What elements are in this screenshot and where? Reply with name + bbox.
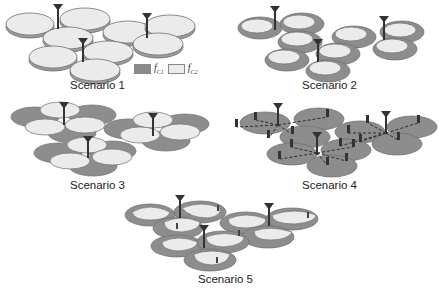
legend: fC1 fC2: [134, 62, 198, 75]
scenario-1-caption: Scenario 1: [70, 79, 125, 91]
scenario-3-caption: Scenario 3: [70, 179, 125, 191]
scenario-2-caption: Scenario 2: [302, 79, 357, 91]
scenario-4-panel: Scenario 4: [220, 95, 439, 190]
scenario-3-panel: Scenario 3: [0, 95, 220, 190]
scenario-5-panel: Scenario 5: [120, 190, 340, 294]
scenario-1-panel: fC1 fC2 Scenario 1: [0, 0, 220, 95]
legend-label-fc2: fC2: [188, 62, 198, 75]
scenario-3-diagram: [0, 95, 220, 190]
legend-swatch-fc1: [134, 64, 151, 74]
scenario-4-diagram: [220, 95, 439, 190]
legend-label-fc1: fC1: [154, 62, 164, 75]
scenario-2-panel: Scenario 2: [220, 0, 439, 95]
scenario-5-caption: Scenario 5: [198, 273, 253, 285]
legend-swatch-fc2: [168, 64, 185, 74]
